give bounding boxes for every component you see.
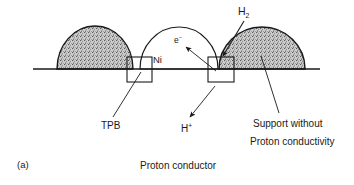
support-label-line1: Support without xyxy=(253,119,323,129)
tpb-label: TPB xyxy=(101,121,120,131)
support-particle-right xyxy=(219,27,305,69)
proton-label: H+ xyxy=(181,124,192,134)
electron-label: e− xyxy=(174,36,182,45)
support-particle-left xyxy=(57,26,133,69)
figure-caption: Proton conductor xyxy=(140,161,216,171)
diagram-canvas xyxy=(0,0,354,185)
figure-panel-a: H2 e− Ni TPB H+ Support without Proton c… xyxy=(0,0,354,185)
nickel-label: Ni xyxy=(153,55,162,65)
proton-arrow xyxy=(190,86,215,117)
panel-label: (a) xyxy=(17,160,29,170)
support-label-line2: Proton conductivity xyxy=(250,137,335,147)
h2-label: H2 xyxy=(238,6,249,17)
